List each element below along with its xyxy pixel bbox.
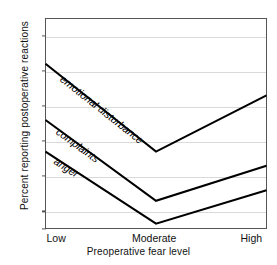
series-line [46,120,267,201]
x-tick-label: Moderate [132,232,176,244]
series-line [46,152,267,224]
chart-figure: Percent reporting postoperative reaction… [0,0,277,265]
x-tick-label: Low [47,232,66,244]
x-axis-title: Preoperative fear level [0,246,277,257]
x-tick-label: High [241,232,263,244]
